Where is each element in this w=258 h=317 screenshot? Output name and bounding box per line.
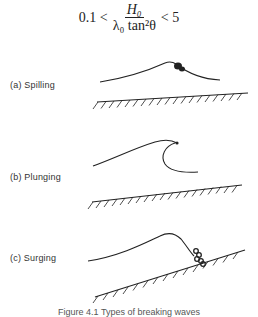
spilling-foam-icon (174, 63, 185, 72)
surging-seabed-line (95, 250, 245, 297)
surging-wave-drawing (88, 234, 245, 303)
plunging-seabed-hatching (88, 186, 237, 210)
plunging-lip-icon (175, 141, 178, 144)
surging-wave-profile (88, 234, 194, 261)
spilling-wave-drawing (93, 62, 248, 109)
plunging-wave-curl (163, 143, 198, 172)
surging-seabed-hatching (93, 252, 238, 303)
spilling-wave-profile (100, 62, 220, 82)
plunging-wave-drawing (88, 140, 242, 209)
plunging-seabed-line (92, 185, 242, 202)
surging-foam-icon (194, 249, 206, 267)
figure-caption: Figure 4.1 Types of breaking waves (0, 307, 258, 317)
